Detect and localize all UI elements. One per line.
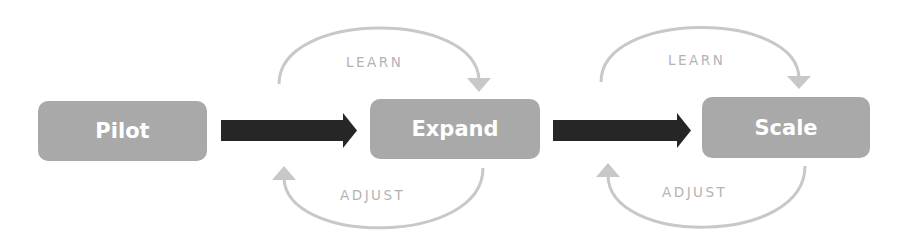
stage-pilot: Pilot bbox=[38, 101, 207, 161]
forward-arrow-1 bbox=[221, 113, 357, 148]
loop-label-learn-1: LEARN bbox=[346, 54, 403, 70]
learn-arrowhead-1 bbox=[467, 78, 491, 92]
stage-label: Expand bbox=[411, 117, 498, 141]
loop-label-adjust-1: ADJUST bbox=[340, 187, 405, 203]
stage-label: Scale bbox=[754, 116, 817, 140]
adjust-arrowhead-2 bbox=[596, 163, 620, 177]
loop-label-adjust-2: ADJUST bbox=[662, 184, 727, 200]
learn-arrowhead-2 bbox=[787, 76, 811, 89]
adjust-arrowhead-1 bbox=[272, 166, 296, 180]
stage-label: Pilot bbox=[95, 119, 149, 143]
stage-expand: Expand bbox=[370, 99, 540, 159]
loop-label-learn-2: LEARN bbox=[668, 52, 725, 68]
forward-arrow-2 bbox=[553, 113, 691, 148]
stage-scale: Scale bbox=[702, 97, 870, 158]
